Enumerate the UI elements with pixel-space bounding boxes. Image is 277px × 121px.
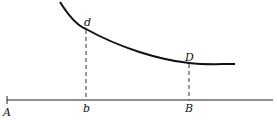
label-D: D <box>184 51 194 64</box>
label-A: A <box>2 106 11 119</box>
label-b: b <box>83 102 90 115</box>
label-B: B <box>184 102 193 115</box>
diagram-canvas: A b B d D <box>0 0 277 121</box>
label-d: d <box>84 16 91 29</box>
